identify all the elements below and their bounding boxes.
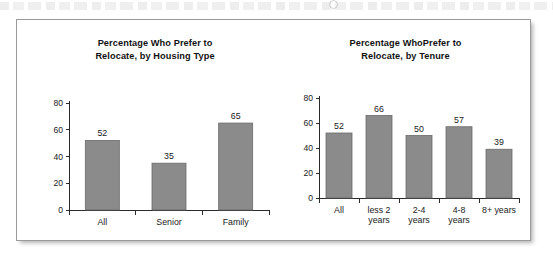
chart-housing-type-plot: 02040608052All35Senior65Family <box>29 20 281 240</box>
chart-tenure-y-tick-label: 0 <box>308 193 313 203</box>
chart-housing-type-bar-value-label: 35 <box>164 151 174 161</box>
chart-tenure-bar-value-label: 66 <box>374 104 384 114</box>
chart-housing-type-bar <box>85 140 119 210</box>
chart-housing-type-y-tick-label: 40 <box>53 152 63 162</box>
chart-tenure-y-tick-label: 20 <box>303 168 313 178</box>
chart-tenure-bar <box>366 116 392 199</box>
chart-housing-type-bar <box>219 123 253 210</box>
chart-tenure-bar <box>446 127 472 198</box>
chart-tenure-category-label: 4-8 <box>453 205 466 215</box>
chart-tenure-bar-value-label: 39 <box>494 137 504 147</box>
chart-tenure-y-tick-label: 60 <box>303 118 313 128</box>
chart-housing-type-bar <box>152 163 186 210</box>
chart-tenure-category-label: less 2 <box>368 205 391 215</box>
chart-tenure-category-label: years <box>448 215 470 225</box>
chart-tenure-bar <box>326 133 352 198</box>
chart-housing-type-bar-value-label: 52 <box>97 128 107 138</box>
chart-housing-type: Percentage Who Prefer to Relocate, by Ho… <box>29 20 281 240</box>
chart-tenure-category-label: 8+ years <box>482 205 517 215</box>
chart-tenure-category-label: years <box>368 215 390 225</box>
chart-tenure-category-label: All <box>334 205 344 215</box>
chart-tenure-bar-value-label: 52 <box>334 121 344 131</box>
chart-tenure: Percentage WhoPrefer to Relocate, by Ten… <box>283 20 528 240</box>
scan-artifact-text-line <box>0 2 553 10</box>
chart-tenure-bar <box>486 149 512 198</box>
chart-tenure-y-tick-label: 80 <box>303 93 313 103</box>
chart-housing-type-category-label: All <box>97 217 107 227</box>
chart-housing-type-y-tick-label: 80 <box>53 98 63 108</box>
chart-tenure-bar-value-label: 57 <box>454 115 464 125</box>
chart-tenure-plot: 02040608052All66less 2years502-4years574… <box>283 20 528 240</box>
chart-housing-type-y-tick-label: 20 <box>53 178 63 188</box>
chart-housing-type-y-tick-label: 0 <box>58 205 63 215</box>
figure-container: Percentage Who Prefer to Relocate, by Ho… <box>16 19 531 241</box>
chart-housing-type-y-tick-label: 60 <box>53 125 63 135</box>
chart-tenure-bar <box>406 136 432 199</box>
chart-housing-type-bar-value-label: 65 <box>231 111 241 121</box>
chart-tenure-category-label: 2-4 <box>413 205 426 215</box>
chart-tenure-bar-value-label: 50 <box>414 124 424 134</box>
chart-housing-type-category-label: Senior <box>156 217 181 227</box>
chart-housing-type-category-label: Family <box>223 217 250 227</box>
chart-tenure-y-tick-label: 40 <box>303 143 313 153</box>
chart-tenure-category-label: years <box>408 215 430 225</box>
